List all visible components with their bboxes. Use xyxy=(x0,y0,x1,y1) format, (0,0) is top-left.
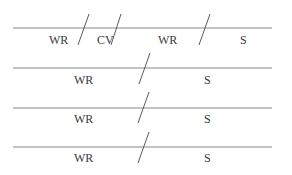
segment-label: S xyxy=(204,151,211,165)
diagram-row-1: WRCVWRS xyxy=(13,14,272,47)
diagram-row-2: WRS xyxy=(13,53,272,87)
segment-label: WR xyxy=(74,151,93,165)
segment-label: WR xyxy=(74,73,93,87)
segment-label: WR xyxy=(49,33,68,47)
diagram-row-3: WRS xyxy=(13,92,272,126)
segment-label: WR xyxy=(158,33,177,47)
segment-label: S xyxy=(240,33,247,47)
boundary-slash xyxy=(199,14,210,45)
segment-label: WR xyxy=(74,112,93,126)
segment-label: CV xyxy=(97,33,114,47)
syllable-boundary-diagram: WRCVWRSWRSWRSWRS xyxy=(0,0,292,175)
boundary-slash xyxy=(78,14,89,45)
segment-label: S xyxy=(204,112,211,126)
segment-label: S xyxy=(204,73,211,87)
diagram-row-4: WRS xyxy=(13,132,272,165)
